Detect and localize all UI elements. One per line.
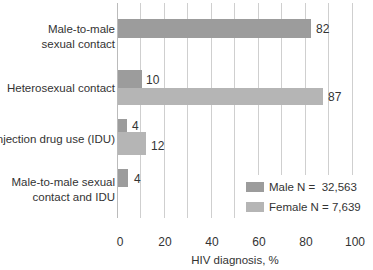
- label-line: contact and IDU: [11, 190, 115, 205]
- x-tick: 100: [345, 235, 365, 249]
- bar-male-heterosexual: [118, 70, 142, 88]
- label-line: sexual contact: [41, 37, 115, 52]
- category-label-idu: Injection drug use (IDU): [0, 132, 115, 147]
- category-label-heterosexual: Heterosexual contact: [7, 81, 115, 96]
- bar-male-male-to-male: [118, 19, 311, 38]
- value-label: 10: [146, 73, 159, 87]
- x-tick: 80: [299, 235, 312, 249]
- legend-swatch-female: [246, 202, 264, 212]
- x-tick: 60: [252, 235, 265, 249]
- label-line: Male-to-male sexual: [11, 175, 115, 190]
- legend-item-male: Male N = 32,563: [246, 177, 361, 197]
- category-label-male-to-male: Male-to-male sexual contact: [41, 22, 115, 52]
- label-line: Male-to-male: [41, 22, 115, 37]
- bar-male-male-to-male-idu: [118, 169, 128, 187]
- value-label: 4: [134, 172, 141, 186]
- x-tick: 20: [158, 235, 171, 249]
- legend-label: Female N = 7,639: [269, 201, 361, 213]
- bar-male-idu: [118, 119, 127, 132]
- legend-swatch-male: [246, 182, 264, 192]
- x-tick: 0: [117, 235, 124, 249]
- legend: Male N = 32,563 Female N = 7,639: [242, 175, 365, 219]
- legend-label: Male N = 32,563: [269, 181, 357, 193]
- bar-female-heterosexual: [118, 88, 323, 105]
- x-tick: 40: [205, 235, 218, 249]
- legend-item-female: Female N = 7,639: [246, 197, 361, 217]
- category-label-male-to-male-idu: Male-to-male sexual contact and IDU: [11, 175, 115, 205]
- bar-female-idu: [118, 132, 146, 155]
- value-label: 82: [316, 22, 329, 36]
- value-label: 12: [151, 139, 164, 153]
- value-label: 87: [328, 90, 341, 104]
- value-label: 4: [132, 119, 139, 133]
- x-axis-label: HIV diagnosis, %: [0, 254, 373, 266]
